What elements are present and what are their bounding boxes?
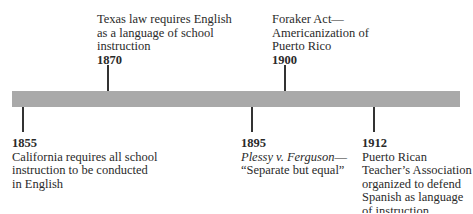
event-text: Puerto Rico (272, 40, 369, 54)
event-1895: 1895 Plessy v. Ferguson— “Separate but e… (241, 137, 347, 178)
event-text: “Separate but equal” (241, 164, 347, 178)
event-year: 1912 (362, 137, 472, 151)
case-name: Plessy v. Ferguson (241, 150, 334, 164)
event-text: Texas law requires English (97, 13, 232, 27)
event-text: Foraker Act— (272, 13, 369, 27)
tick-1855 (22, 107, 24, 132)
event-1912: 1912 Puerto Rican Teacher’s Association … (362, 137, 472, 213)
event-text: Spanish as language (362, 191, 472, 205)
event-1900: Foraker Act— Americanization of Puerto R… (272, 13, 369, 67)
event-text: in English (12, 178, 157, 192)
event-1870: Texas law requires English as a language… (97, 13, 232, 67)
event-text: as a language of school (97, 27, 232, 41)
tick-1895 (251, 107, 253, 132)
event-text-line: Plessy v. Ferguson— (241, 151, 347, 165)
event-text: instruction to be conducted (12, 164, 157, 178)
event-1855: 1855 California requires all school inst… (12, 137, 157, 191)
event-year: 1900 (272, 54, 369, 68)
event-year: 1855 (12, 137, 157, 151)
event-text: instruction (97, 40, 232, 54)
tick-1870 (107, 65, 109, 91)
tick-1900 (284, 65, 286, 91)
tick-1912 (373, 107, 375, 132)
event-text: Americanization of (272, 27, 369, 41)
event-text: Puerto Rican (362, 151, 472, 165)
timeline-bar (12, 91, 460, 107)
event-text: — (334, 150, 347, 164)
event-text: organized to defend (362, 178, 472, 192)
event-text: of instruction (362, 205, 472, 214)
event-text: Teacher’s Association (362, 164, 472, 178)
event-year: 1870 (97, 54, 232, 68)
event-text: California requires all school (12, 151, 157, 165)
event-year: 1895 (241, 137, 347, 151)
